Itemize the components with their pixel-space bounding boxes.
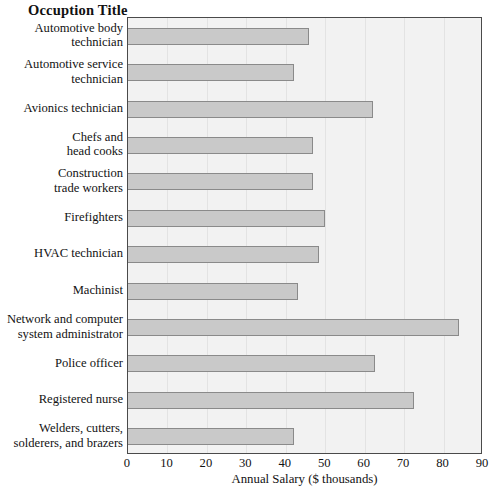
gridline — [207, 18, 208, 453]
bar — [128, 28, 309, 45]
x-axis-tick-label: 50 — [318, 456, 331, 471]
y-axis-label-line: Chefs and — [3, 130, 123, 145]
x-axis-tick-label: 80 — [436, 456, 449, 471]
y-axis-label-line: Police officer — [3, 356, 123, 371]
bar — [128, 283, 298, 300]
x-axis-tick-label: 0 — [124, 456, 130, 471]
x-axis-tick-label: 10 — [160, 456, 173, 471]
bar — [128, 355, 375, 372]
y-axis-label: Registered nurse — [3, 392, 123, 407]
x-axis-tick-label: 30 — [239, 456, 252, 471]
y-axis-label: Welders, cutters,solderers, and brazers — [3, 421, 123, 450]
gridline — [286, 18, 287, 453]
y-axis-label-line: Automotive body — [3, 21, 123, 36]
bar — [128, 392, 414, 409]
y-axis-label-line: technician — [3, 72, 123, 87]
gridline — [325, 18, 326, 453]
bar-chart: Occuption Title Automotive bodytechnicia… — [0, 0, 497, 492]
bar — [128, 173, 313, 190]
y-axis-category-labels: Automotive bodytechnicianAutomotive serv… — [0, 17, 123, 454]
y-axis-label: Constructiontrade workers — [3, 166, 123, 195]
y-axis-label-line: Construction — [3, 166, 123, 181]
x-axis-tick-label: 20 — [200, 456, 213, 471]
y-axis-label-line: system administrator — [3, 327, 123, 342]
y-axis-label-line: technician — [3, 35, 123, 50]
bar — [128, 319, 459, 336]
x-axis-tick-label: 60 — [357, 456, 370, 471]
y-axis-label: Firefighters — [3, 210, 123, 225]
gridline — [404, 18, 405, 453]
gridline — [167, 18, 168, 453]
y-axis-label: Chefs andhead cooks — [3, 130, 123, 159]
y-axis-label-line: Machinist — [3, 283, 123, 298]
y-axis-label: Automotive servicetechnician — [3, 57, 123, 86]
bar — [128, 210, 325, 227]
y-axis-label: Automotive bodytechnician — [3, 21, 123, 50]
x-axis-label: Annual Salary ($ thousands) — [127, 472, 482, 487]
gridline — [365, 18, 366, 453]
y-axis-label-line: Automotive service — [3, 57, 123, 72]
y-axis-label-line: Firefighters — [3, 210, 123, 225]
bar — [128, 101, 373, 118]
y-axis-label: Avionics technician — [3, 101, 123, 116]
y-axis-label: Police officer — [3, 356, 123, 371]
gridline — [444, 18, 445, 453]
bar — [128, 137, 313, 154]
y-axis-label-line: HVAC technician — [3, 246, 123, 261]
gridline — [246, 18, 247, 453]
x-axis-tick-label: 40 — [278, 456, 291, 471]
y-axis-label-line: Welders, cutters, — [3, 421, 123, 436]
y-axis-label-line: trade workers — [3, 181, 123, 196]
bar — [128, 428, 294, 445]
bar — [128, 246, 319, 263]
y-axis-label-line: head cooks — [3, 144, 123, 159]
y-axis-label: HVAC technician — [3, 246, 123, 261]
y-axis-label-line: Avionics technician — [3, 101, 123, 116]
bar — [128, 64, 294, 81]
x-axis-tick-label: 70 — [397, 456, 410, 471]
y-axis-label-line: Network and computer — [3, 312, 123, 327]
y-axis-label-line: Registered nurse — [3, 392, 123, 407]
y-axis-label: Network and computersystem administrator — [3, 312, 123, 341]
x-axis-tick-label: 90 — [476, 456, 489, 471]
y-axis-label: Machinist — [3, 283, 123, 298]
y-axis-label-line: solderers, and brazers — [3, 436, 123, 451]
plot-area — [127, 17, 482, 454]
